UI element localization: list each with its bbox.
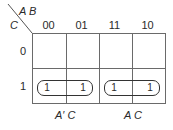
group-label-a-not-c: A′ C xyxy=(55,110,75,121)
column-header-01: 01 xyxy=(65,20,98,31)
row-header-1: 1 xyxy=(18,81,28,92)
grid-divider xyxy=(33,68,165,69)
column-header-11: 11 xyxy=(98,20,131,31)
column-header-10: 10 xyxy=(131,20,164,31)
group-loop-a-not-c xyxy=(37,80,93,96)
column-variables-label: A B xyxy=(19,6,36,17)
group-loop-a-c xyxy=(104,80,160,96)
group-label-a-c: A C xyxy=(124,110,142,121)
column-header-00: 00 xyxy=(32,20,65,31)
row-variables-label: C xyxy=(10,20,18,31)
row-header-0: 0 xyxy=(18,46,28,57)
